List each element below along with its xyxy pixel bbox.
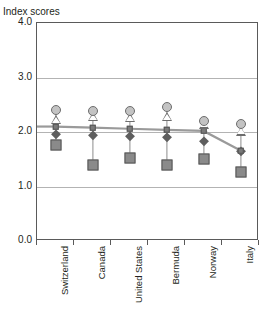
marker-circle-marker <box>162 102 172 112</box>
connecting-polyline <box>56 127 241 151</box>
x-tick <box>258 240 259 245</box>
x-tick <box>110 240 111 245</box>
marker-circle-marker <box>236 119 246 129</box>
x-tick-label: United States <box>133 246 144 303</box>
marker-triangle-marker <box>51 115 61 124</box>
y-tick-label: 3.0 <box>0 72 32 82</box>
y-tick-label: 0.0 <box>0 235 32 245</box>
marker-large-square-marker <box>161 159 172 170</box>
marker-large-square-marker <box>124 152 135 163</box>
series-connecting-line <box>37 23 259 241</box>
x-tick-label: Bermuda <box>170 246 181 285</box>
x-tick <box>36 240 37 245</box>
marker-large-square-marker <box>50 140 61 151</box>
x-tick <box>184 240 185 245</box>
x-tick <box>221 240 222 245</box>
x-tick-label: Norway <box>207 246 218 278</box>
plot-area <box>36 22 258 240</box>
index-scores-chart: Index scores 4.03.02.01.00.0 Switzerland… <box>0 0 272 319</box>
marker-circle-marker <box>51 105 61 115</box>
marker-large-square-marker <box>87 159 98 170</box>
x-tick-label: Switzerland <box>59 246 70 295</box>
marker-square-line-marker <box>126 125 133 132</box>
x-tick <box>73 240 74 245</box>
marker-large-square-marker <box>235 167 246 178</box>
marker-large-square-marker <box>198 154 209 165</box>
x-tick <box>147 240 148 245</box>
marker-circle-marker <box>88 106 98 116</box>
marker-triangle-marker <box>162 112 172 121</box>
y-tick-label: 4.0 <box>0 17 32 27</box>
marker-circle-marker <box>125 106 135 116</box>
x-tick-label: Canada <box>96 246 107 279</box>
y-tick-label: 2.0 <box>0 126 32 136</box>
marker-square-line-marker <box>237 147 244 154</box>
x-tick-label: Italy <box>244 246 255 263</box>
y-tick-label: 1.0 <box>0 181 32 191</box>
marker-square-line-marker <box>163 127 170 134</box>
marker-circle-marker <box>199 116 209 126</box>
marker-square-line-marker <box>89 124 96 131</box>
